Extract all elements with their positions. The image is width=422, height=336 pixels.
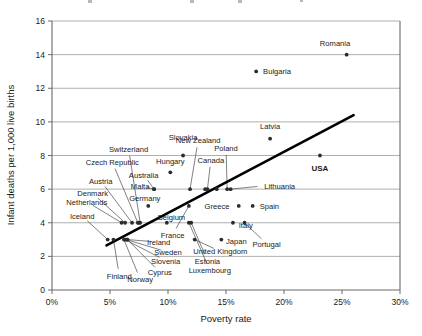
- infant-mortality-poverty-scatter-chart: 0246810121416 0%5%10%15%20%25%30% Romani…: [0, 0, 422, 336]
- data-point: [237, 204, 241, 208]
- x-tick-label: 0%: [46, 297, 59, 307]
- data-point: [120, 221, 124, 225]
- y-tick-label: 12: [36, 83, 46, 93]
- leader-line: [113, 240, 118, 269]
- data-point: [123, 221, 127, 225]
- y-tick-label: 14: [36, 50, 46, 60]
- leader-line: [105, 186, 132, 222]
- data-point-label: Greece: [205, 202, 230, 211]
- data-point: [130, 221, 134, 225]
- data-point: [126, 238, 130, 242]
- data-point-label: Iceland: [70, 212, 95, 221]
- y-tick-label: 6: [40, 184, 45, 194]
- y-tick-label: 2: [40, 251, 45, 261]
- data-point: [206, 187, 210, 191]
- x-tick-label: 20%: [275, 297, 292, 307]
- data-point-label: Switzerland: [109, 145, 148, 154]
- data-point-label: USA: [312, 164, 329, 173]
- data-point-label: Slovenia: [151, 257, 181, 266]
- x-tick-label: 15%: [217, 297, 234, 307]
- y-tick-label: 8: [40, 151, 45, 161]
- data-point: [219, 238, 223, 242]
- data-point-label: Austria: [89, 177, 113, 186]
- data-point: [187, 221, 191, 225]
- data-point-label: Romania: [320, 39, 351, 48]
- x-tick-label: 10%: [159, 297, 176, 307]
- x-axis-tick-labels: 0%5%10%15%20%25%30%: [46, 297, 409, 307]
- y-tick-marks: [48, 21, 52, 290]
- data-point-label: Lithuania: [264, 182, 296, 191]
- data-point: [106, 238, 110, 242]
- leader-line: [190, 147, 197, 189]
- x-tick-label: 25%: [333, 297, 350, 307]
- data-point-label: United Kingdom: [193, 247, 247, 256]
- y-axis-title: Infant deaths per 1,000 live births: [5, 85, 16, 226]
- data-point-label: Bulgaria: [263, 67, 292, 76]
- data-point: [268, 137, 272, 141]
- data-point: [229, 187, 233, 191]
- chart-canvas: 0246810121416 0%5%10%15%20%25%30% Romani…: [0, 0, 422, 336]
- data-point-label: Ireland: [147, 238, 170, 247]
- data-point: [112, 238, 116, 242]
- leader-line: [226, 155, 227, 189]
- data-point: [225, 187, 229, 191]
- y-tick-label: 4: [40, 218, 45, 228]
- data-point: [251, 204, 255, 208]
- x-axis-title: Poverty rate: [200, 313, 251, 324]
- data-point: [122, 238, 126, 242]
- data-point-label: Malta: [131, 182, 150, 191]
- data-point-label: Spain: [260, 202, 279, 211]
- y-axis-tick-labels: 0246810121416: [36, 16, 46, 295]
- data-point-label: Hungary: [156, 157, 185, 166]
- data-point: [136, 221, 140, 225]
- data-point-label: Norway: [127, 275, 153, 284]
- data-point: [318, 154, 322, 158]
- y-tick-label: 16: [36, 16, 46, 26]
- leader-line: [93, 205, 122, 222]
- data-point-label: Belgium: [158, 213, 185, 222]
- data-point-label: Germany: [129, 194, 160, 203]
- data-point: [254, 70, 258, 74]
- gridlines: [52, 21, 400, 256]
- data-point-label: Portugal: [252, 240, 281, 249]
- data-point-label: Luxembourg: [189, 266, 231, 275]
- leader-line: [231, 186, 258, 189]
- trend-line: [107, 115, 354, 245]
- data-point-label: Poland: [214, 144, 238, 153]
- data-point: [146, 204, 150, 208]
- data-point-labels: RomaniaBulgariaLatviaUSASlovakiaHungaryS…: [66, 39, 351, 284]
- x-tick-marks: [52, 290, 400, 294]
- data-point: [152, 187, 156, 191]
- data-point-label: Italy: [239, 221, 253, 230]
- data-point: [215, 187, 219, 191]
- data-point: [193, 238, 197, 242]
- data-point-label: Australia: [129, 171, 159, 180]
- data-point-label: Czech Republic: [86, 158, 139, 167]
- data-point: [231, 221, 235, 225]
- x-tick-label: 5%: [104, 297, 117, 307]
- data-point-label: Estonia: [195, 257, 221, 266]
- data-point-label: Japan: [226, 237, 247, 246]
- y-tick-label: 0: [40, 285, 45, 295]
- data-point: [168, 170, 172, 174]
- data-point-label: Netherlands: [66, 198, 107, 207]
- data-point: [187, 204, 191, 208]
- cropped-title-remnant: [88, 0, 303, 3]
- leader-line: [207, 167, 210, 189]
- data-point: [188, 187, 192, 191]
- data-point-label: Latvia: [260, 122, 281, 131]
- y-tick-label: 10: [36, 117, 46, 127]
- leader-line: [87, 221, 107, 240]
- x-tick-label: 30%: [391, 297, 408, 307]
- data-point: [345, 53, 349, 57]
- data-point-label: Canada: [198, 156, 225, 165]
